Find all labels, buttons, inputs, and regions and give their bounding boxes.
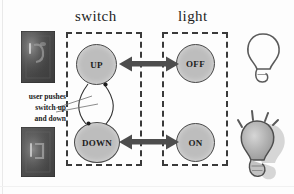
column-heading-switch: switch	[75, 8, 117, 25]
state-node-down[interactable]: DOWN	[74, 122, 120, 163]
bulb-on-icon	[232, 108, 292, 188]
photo-switch-down	[21, 127, 55, 177]
state-node-up[interactable]: UP	[76, 44, 117, 85]
scan-artifact-line	[2, 0, 3, 194]
photo-switch-up	[21, 31, 55, 83]
annotation-line-1: user pushes	[4, 92, 66, 103]
column-heading-light: light	[178, 8, 208, 25]
annotation-line-2: switch up	[4, 103, 66, 114]
diagram-canvas: switch light	[0, 0, 294, 194]
state-node-on[interactable]: ON	[176, 123, 215, 162]
annotation-user-pushes: user pushes switch up and down	[4, 92, 66, 125]
bulb-off-icon	[240, 30, 286, 92]
annotation-line-3: and down	[4, 114, 66, 125]
state-node-off[interactable]: OFF	[176, 44, 215, 83]
